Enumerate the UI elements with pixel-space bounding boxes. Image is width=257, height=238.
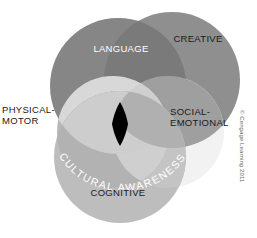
copyright-notice: © Cengage Learning 2011	[239, 110, 245, 196]
venn-circles-graphic: CULTURAL AWARENESS	[0, 0, 257, 238]
venn-diagram-figure: CULTURAL AWARENESS LANGUAGE CREATIVE PHY…	[0, 0, 257, 238]
